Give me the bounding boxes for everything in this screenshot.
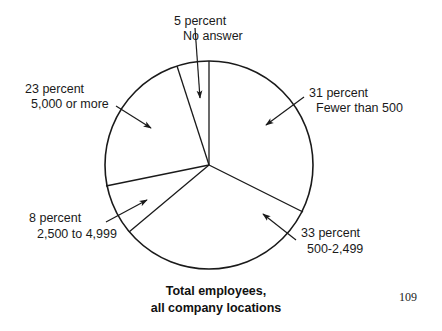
label-5000-percent: 23 percent	[25, 82, 84, 97]
chart-caption-line1: Total employees,	[0, 283, 432, 300]
label-500-2499-percent: 33 percent	[301, 226, 360, 241]
label-no-answer-category: No answer	[183, 29, 243, 44]
label-500-2499-category: 500-2,499	[307, 242, 363, 257]
label-fewer-500-percent: 31 percent	[309, 86, 368, 101]
chart-caption-line2: all company locations	[0, 300, 432, 317]
label-no-answer-percent: 5 percent	[174, 14, 226, 29]
label-5000-category: 5,000 or more	[31, 97, 109, 112]
page-number: 109	[399, 290, 417, 305]
label-fewer-500-category: Fewer than 500	[316, 101, 403, 116]
label-2500-category: 2,500 to 4,999	[37, 227, 117, 242]
label-2500-percent: 8 percent	[29, 211, 81, 226]
pie-chart	[0, 0, 442, 331]
